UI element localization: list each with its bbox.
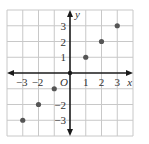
y-tick-label: −2: [54, 99, 66, 111]
arrow-left-icon: [7, 70, 14, 76]
x-tick-label: 2: [99, 76, 105, 88]
arrow-up-icon: [67, 10, 73, 17]
x-tick-label: −3: [16, 76, 28, 88]
x-tick-label: 3: [115, 76, 121, 88]
data-point: [52, 86, 57, 91]
x-tick-label: 1: [83, 76, 89, 88]
data-point: [36, 102, 41, 107]
y-tick-label: 1: [61, 51, 67, 63]
y-axis-label: y: [74, 8, 80, 20]
data-point: [115, 23, 120, 28]
y-tick-label: −3: [54, 114, 66, 126]
data-point: [83, 55, 88, 60]
y-tick-label: 2: [61, 36, 67, 48]
y-tick-label: 3: [61, 20, 67, 32]
x-tick-label: −2: [32, 76, 44, 88]
arrow-down-icon: [67, 129, 73, 136]
coordinate-plane: −3−2123321−2−3 x y O: [0, 0, 149, 144]
data-point: [20, 118, 25, 123]
data-point: [68, 71, 72, 75]
x-axis-label: x: [126, 76, 132, 88]
data-point: [99, 39, 104, 44]
origin-label: O: [60, 76, 68, 88]
